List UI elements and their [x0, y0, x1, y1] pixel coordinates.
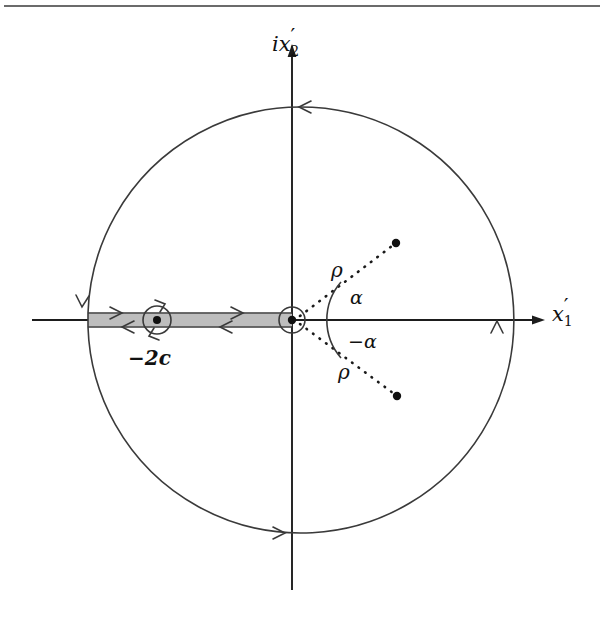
radius-upper-label: ρ — [331, 260, 343, 280]
imaginary-axis-label-main: ix — [272, 32, 291, 56]
diagram-canvas: .ln { stroke:#3a3a3a; stroke-width:1.6; … — [0, 0, 604, 622]
origin-dot — [288, 316, 296, 324]
real-axis-arrowhead — [532, 316, 545, 325]
radius-lower-label: ρ — [338, 362, 350, 382]
ray-lower-endpoint-dot — [393, 392, 401, 400]
branch-cut-group — [88, 307, 292, 333]
real-axis-label-sub: 1 — [564, 313, 573, 329]
branch-point-dot — [153, 316, 161, 324]
imaginary-axis-label-sub: 2 — [290, 43, 299, 59]
arrow-left-down — [76, 295, 89, 307]
ray-upper-alpha — [300, 246, 392, 316]
angle-upper-label: α — [350, 288, 363, 307]
arrow-right-up — [491, 321, 503, 333]
real-axis-label-main: x — [552, 302, 564, 326]
branch-point-label: −2c — [128, 348, 171, 368]
angle-lower-label: −α — [348, 332, 377, 351]
imaginary-axis-label: ix′2 — [272, 26, 299, 58]
real-axis-label: x′1 — [552, 296, 573, 328]
figure-root: .ln { stroke:#3a3a3a; stroke-width:1.6; … — [0, 0, 604, 622]
ray-upper-endpoint-dot — [392, 239, 400, 247]
